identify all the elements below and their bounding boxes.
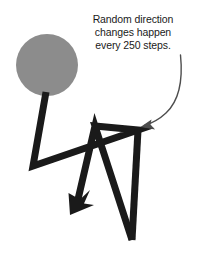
random-walk-path	[33, 92, 138, 240]
start-region-circle	[16, 34, 78, 96]
random-walk-path-group	[33, 92, 138, 240]
callout-curved-arrow-line	[145, 55, 182, 126]
callout-curved-arrow-group	[141, 55, 182, 130]
annotation-label: Random direction changes happen every 25…	[84, 13, 182, 53]
diagram-canvas: Random direction changes happen every 25…	[0, 0, 198, 261]
random-walk-right-riser	[132, 130, 138, 240]
